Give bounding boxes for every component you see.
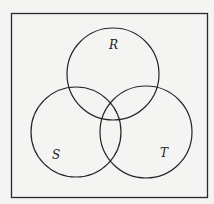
label-t: T [160, 146, 169, 160]
circle-t [100, 86, 192, 178]
label-r: R [108, 38, 118, 52]
label-s: S [52, 148, 60, 162]
venn-diagram: R S T [0, 0, 214, 204]
